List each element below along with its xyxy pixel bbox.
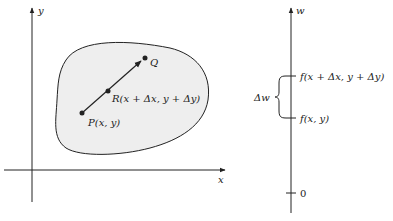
y-axis-label: y (37, 5, 44, 16)
point-p (80, 111, 85, 116)
left-panel: y x P(x, y) R(x + Δx, y + Δy) Q (4, 5, 225, 202)
point-p-label: P(x, y) (87, 117, 120, 128)
point-q (143, 56, 148, 61)
point-q-label: Q (150, 57, 158, 68)
diagram-canvas: y x P(x, y) R(x + Δx, y + Δy) Q w f(x + … (0, 0, 393, 221)
right-panel: w f(x + Δx, y + Δy) f(x, y) 0 Δw (253, 5, 384, 213)
brace (275, 76, 286, 118)
delta-w-label: Δw (253, 92, 270, 103)
tick-f-delta-label: f(x + Δx, y + Δy) (299, 71, 384, 82)
tick-f-label: f(x, y) (299, 113, 329, 124)
x-axis-label: x (218, 174, 224, 185)
point-r (106, 89, 111, 94)
tick-zero-label: 0 (300, 188, 306, 199)
point-r-label: R(x + Δx, y + Δy) (111, 93, 200, 104)
w-axis-label: w (296, 5, 305, 16)
